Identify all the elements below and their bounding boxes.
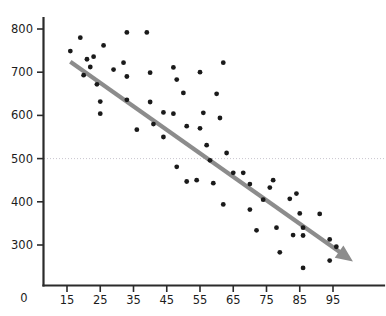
data-point-0-13 (124, 97, 129, 102)
data-point-0-46 (261, 197, 266, 202)
data-point-0-24 (174, 77, 179, 82)
x-tick-label-65: 65 (226, 293, 241, 307)
data-point-0-32 (204, 143, 209, 148)
data-point-0-2 (85, 57, 90, 62)
data-point-0-47 (267, 185, 272, 190)
data-point-0-51 (287, 196, 292, 201)
data-point-0-52 (291, 233, 296, 238)
y-tick-label-700: 700 (11, 65, 33, 79)
data-points (68, 30, 339, 270)
y-tick-label-500: 500 (11, 152, 33, 166)
data-point-0-36 (214, 91, 219, 96)
data-point-0-0 (68, 49, 73, 54)
data-point-0-8 (98, 111, 103, 116)
data-point-0-7 (98, 99, 103, 104)
data-point-0-21 (161, 135, 166, 140)
x-tick-label-85: 85 (292, 293, 307, 307)
data-point-0-5 (81, 73, 86, 78)
data-point-0-54 (297, 211, 302, 216)
x-tick-label-25: 25 (93, 293, 108, 307)
data-point-0-59 (327, 237, 332, 242)
data-point-0-11 (121, 60, 126, 65)
x-tick-label-95: 95 (326, 293, 341, 307)
data-point-0-58 (317, 211, 322, 216)
data-point-0-29 (194, 178, 199, 183)
x-tick-label-15: 15 (60, 293, 75, 307)
data-point-0-44 (247, 207, 252, 212)
data-point-0-56 (301, 233, 306, 238)
data-point-0-27 (184, 179, 189, 184)
plot-area: 300400500600700800 152535455565758595 0 (0, 0, 386, 316)
data-point-0-1 (78, 35, 83, 40)
y-tick-label-300: 300 (11, 238, 33, 252)
data-point-0-9 (101, 43, 106, 48)
data-point-0-15 (148, 100, 153, 105)
data-point-0-25 (174, 164, 179, 169)
data-point-0-3 (88, 65, 93, 70)
data-point-0-26 (184, 124, 189, 129)
data-point-0-55 (301, 225, 306, 230)
x-tick-label-75: 75 (259, 293, 274, 307)
data-point-0-33 (198, 70, 203, 75)
y-tick-label-800: 800 (11, 22, 33, 36)
data-point-0-57 (301, 265, 306, 270)
data-point-0-40 (221, 202, 226, 207)
data-point-0-6 (95, 82, 100, 87)
data-point-0-30 (198, 126, 203, 131)
data-point-0-34 (208, 158, 213, 163)
data-point-0-43 (247, 182, 252, 187)
data-point-0-53 (294, 191, 299, 196)
data-point-0-41 (231, 170, 236, 175)
data-point-0-48 (271, 178, 276, 183)
data-point-0-49 (274, 225, 279, 230)
data-point-0-28 (181, 91, 186, 96)
data-point-0-17 (148, 70, 153, 75)
x-tick-label-55: 55 (193, 293, 208, 307)
y-tick-label-600: 600 (11, 108, 33, 122)
x-tick-label-45: 45 (159, 293, 174, 307)
data-point-0-20 (161, 110, 166, 115)
scatter-chart: 300400500600700800 152535455565758595 0 (0, 0, 386, 316)
trend-line (70, 62, 341, 254)
data-point-0-39 (224, 151, 229, 156)
data-point-0-37 (218, 116, 223, 121)
data-point-0-14 (134, 127, 139, 132)
y-tick-label-400: 400 (11, 195, 33, 209)
data-point-0-12 (124, 74, 129, 79)
x-tick-label-35: 35 (126, 293, 141, 307)
x-axis-tick-labels: 152535455565758595 (60, 293, 341, 307)
data-point-0-61 (334, 244, 339, 249)
origin-label: 0 (20, 291, 27, 305)
data-point-0-4 (91, 54, 96, 59)
data-point-0-16 (151, 122, 156, 127)
data-point-0-18 (144, 30, 149, 35)
data-point-0-35 (211, 181, 216, 186)
data-point-0-19 (124, 30, 129, 35)
data-point-0-42 (241, 170, 246, 175)
data-point-0-60 (327, 258, 332, 263)
y-axis-tick-labels: 300400500600700800 (11, 22, 33, 252)
data-point-0-38 (221, 60, 226, 65)
data-point-0-22 (171, 111, 176, 116)
data-point-0-23 (171, 65, 176, 70)
data-point-0-10 (111, 67, 116, 72)
data-point-0-31 (201, 110, 206, 115)
data-point-0-50 (277, 250, 282, 255)
data-point-0-45 (254, 228, 259, 233)
